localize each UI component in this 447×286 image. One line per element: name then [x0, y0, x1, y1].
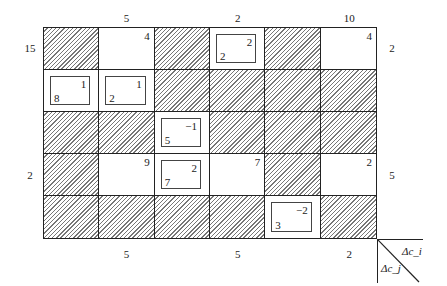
cell-flow-value: 2	[109, 92, 115, 104]
cell-blocked	[155, 28, 210, 70]
cell-blocked	[44, 196, 99, 238]
cell-blocked	[210, 70, 265, 112]
cell-basic: 22	[210, 28, 265, 70]
cell-cost-value: −2	[296, 204, 308, 216]
cell-blocked	[99, 112, 154, 154]
cell-delta-value: 4	[144, 30, 150, 42]
cell-blocked	[44, 154, 99, 196]
cell-basic: 18	[44, 70, 99, 112]
cell-open: 4	[99, 28, 154, 70]
cell-blocked	[321, 70, 376, 112]
transport-grid: 42241812−1592772−23	[43, 27, 377, 239]
basic-variable-box: 27	[161, 160, 201, 189]
left-label: 2	[27, 169, 33, 181]
cell-flow-value: 3	[275, 219, 281, 231]
cell-blocked	[321, 196, 376, 238]
cell-delta-value: 4	[366, 30, 372, 42]
cell-open: 7	[210, 154, 265, 196]
legend-row-label: Δc_i	[402, 245, 422, 257]
cell-basic: −15	[155, 112, 210, 154]
cell-flow-value: 8	[54, 92, 60, 104]
cell-blocked	[155, 70, 210, 112]
cell-blocked	[265, 154, 320, 196]
cell-cost-value: −1	[185, 120, 197, 132]
bottom-label: 2	[346, 248, 352, 260]
right-label: 2	[389, 42, 395, 54]
cell-open: 2	[321, 154, 376, 196]
cell-blocked	[99, 196, 154, 238]
cell-blocked	[155, 196, 210, 238]
cell-flow-value: 7	[165, 176, 171, 188]
left-label: 15	[25, 42, 36, 54]
cell-flow-value: 2	[220, 50, 226, 62]
cell-basic: −23	[265, 196, 320, 238]
cell-flow-value: 5	[165, 134, 171, 146]
bottom-label: 5	[235, 248, 241, 260]
cell-cost-value: 2	[247, 36, 253, 48]
cell-delta-value: 7	[255, 156, 261, 168]
cell-blocked	[210, 196, 265, 238]
cell-delta-value: 2	[366, 156, 372, 168]
cell-cost-value: 1	[136, 78, 142, 90]
cell-blocked	[44, 28, 99, 70]
cell-delta-value: 9	[144, 156, 150, 168]
cell-open: 4	[321, 28, 376, 70]
cell-blocked	[265, 28, 320, 70]
cell-basic: 27	[155, 154, 210, 196]
basic-variable-box: 22	[216, 34, 256, 63]
cell-blocked	[265, 112, 320, 154]
basic-variable-box: 18	[50, 76, 90, 105]
cell-cost-value: 1	[81, 78, 87, 90]
top-label: 5	[124, 12, 130, 24]
cell-cost-value: 2	[191, 162, 197, 174]
bottom-label: 5	[124, 248, 130, 260]
basic-variable-box: 12	[105, 76, 145, 105]
basic-variable-box: −15	[161, 118, 201, 147]
top-label: 2	[235, 12, 241, 24]
cell-blocked	[321, 112, 376, 154]
cell-blocked	[44, 112, 99, 154]
basic-variable-box: −23	[271, 202, 311, 232]
cell-basic: 12	[99, 70, 154, 112]
cell-blocked	[265, 70, 320, 112]
right-label: 5	[389, 169, 395, 181]
top-label: 10	[344, 12, 355, 24]
legend-col-label: Δc_j	[381, 262, 401, 274]
cell-open: 9	[99, 154, 154, 196]
cell-blocked	[210, 112, 265, 154]
